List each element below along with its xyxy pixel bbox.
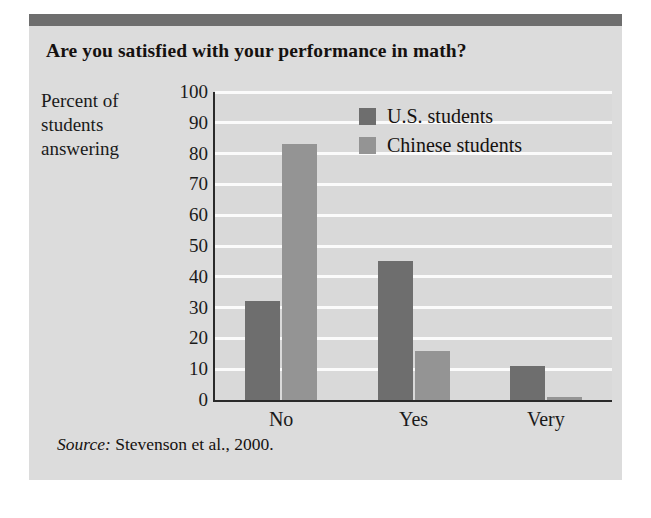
x-axis-tick-label-no: No (269, 408, 293, 431)
figure-panel: Are you satisfied with your performance … (29, 14, 622, 480)
bar-no-chinese-students (282, 144, 317, 400)
gridline-y-40 (215, 275, 612, 278)
plot-area-wrapper: 0102030405060708090100NoYesVery U.S. stu… (213, 92, 612, 416)
y-axis-tick-label-60: 60 (189, 204, 208, 226)
legend-swatch-icon-chinese-students (359, 137, 376, 154)
source-note: Source: Stevenson et al., 2000. (57, 434, 274, 455)
gridline-y-60 (215, 214, 612, 217)
bar-yes-chinese-students (415, 351, 450, 400)
y-axis-tick-label-100: 100 (180, 81, 209, 103)
y-axis-tick-label-70: 70 (189, 173, 208, 195)
top-accent-band (29, 14, 622, 26)
gridline-y-70 (215, 183, 612, 186)
bar-no-us-students (245, 301, 280, 400)
y-axis-caption-line-1: Percent of (41, 89, 171, 113)
bar-very-chinese-students (547, 397, 582, 400)
y-axis-caption: Percent of students answering (41, 89, 171, 161)
chart-legend: U.S. students Chinese students (359, 102, 522, 160)
y-axis-caption-line-3: answering (41, 137, 171, 161)
y-axis-tick-label-40: 40 (189, 266, 208, 288)
y-axis-tick-label-0: 0 (199, 389, 209, 411)
bar-very-us-students (510, 366, 545, 400)
legend-item-us-students: U.S. students (359, 102, 522, 131)
x-axis-tick-label-very: Very (527, 408, 565, 431)
y-axis-tick-label-80: 80 (189, 143, 208, 165)
bar-yes-us-students (378, 261, 413, 400)
chart-title: Are you satisfied with your performance … (46, 40, 606, 62)
x-axis-tick-label-yes: Yes (399, 408, 428, 431)
y-axis-caption-line-2: students (41, 113, 171, 137)
legend-swatch-icon-us-students (359, 108, 376, 125)
y-axis-tick-label-50: 50 (189, 235, 208, 257)
source-note-text: Stevenson et al., 2000. (111, 434, 274, 454)
y-axis-tick-label-20: 20 (189, 327, 208, 349)
gridline-y-50 (215, 245, 612, 248)
y-axis-tick-label-90: 90 (189, 112, 208, 134)
legend-item-chinese-students: Chinese students (359, 131, 522, 160)
legend-label-us-students: U.S. students (387, 105, 493, 128)
gridline-y-100 (215, 91, 612, 94)
y-axis-tick-label-30: 30 (189, 297, 208, 319)
y-axis-tick-label-10: 10 (189, 358, 208, 380)
source-note-lead: Source: (57, 434, 111, 454)
legend-label-chinese-students: Chinese students (387, 134, 522, 157)
